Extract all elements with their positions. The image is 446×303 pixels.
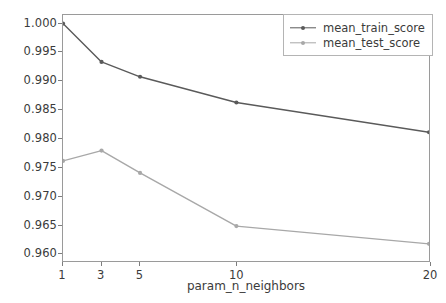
data-point-marker bbox=[138, 171, 142, 175]
data-point-marker bbox=[138, 75, 142, 79]
x-tick-mark bbox=[62, 262, 63, 266]
legend-label-test: mean_test_score bbox=[323, 36, 420, 50]
x-tick-mark bbox=[236, 262, 237, 266]
figure-canvas: 0.9600.9650.9700.9750.9800.9850.9900.995… bbox=[0, 0, 446, 303]
y-tick-label: 0.995 bbox=[24, 44, 57, 58]
y-tick-label: 0.980 bbox=[24, 131, 57, 145]
legend-marker-train bbox=[301, 26, 305, 30]
data-point-marker bbox=[234, 100, 238, 104]
legend-item-train: mean_train_score bbox=[290, 20, 425, 35]
x-axis-label: param_n_neighbors bbox=[62, 279, 430, 293]
y-tick-label: 0.975 bbox=[24, 160, 57, 174]
data-point-marker bbox=[99, 149, 103, 153]
x-tick-mark bbox=[139, 262, 140, 266]
data-point-marker bbox=[427, 130, 429, 134]
x-tick-mark bbox=[430, 262, 431, 266]
data-point-marker bbox=[234, 224, 238, 228]
series-line-mean_test_score bbox=[63, 151, 429, 244]
y-tick-label: 0.985 bbox=[24, 102, 57, 116]
chart-legend: mean_train_score mean_test_score bbox=[283, 14, 433, 56]
x-tick-mark bbox=[101, 262, 102, 266]
legend-swatch-train bbox=[290, 22, 316, 34]
y-tick-label: 0.990 bbox=[24, 73, 57, 87]
legend-label-train: mean_train_score bbox=[323, 21, 425, 35]
data-point-marker bbox=[99, 60, 103, 64]
legend-swatch-test bbox=[290, 37, 316, 49]
legend-marker-test bbox=[301, 41, 305, 45]
y-tick-label: 0.960 bbox=[24, 246, 57, 260]
y-tick-label: 1.000 bbox=[24, 16, 57, 30]
y-tick-label: 0.970 bbox=[24, 189, 57, 203]
data-point-marker bbox=[63, 159, 65, 163]
legend-item-test: mean_test_score bbox=[290, 35, 425, 50]
data-point-marker bbox=[427, 242, 429, 246]
y-tick-label: 0.965 bbox=[24, 218, 57, 232]
